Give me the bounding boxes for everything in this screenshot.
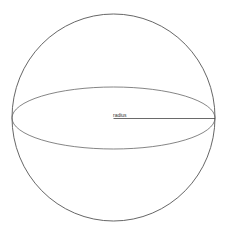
- radius-label: radius: [113, 112, 127, 118]
- sphere-outline: [12, 14, 215, 221]
- equator-ellipse: [12, 87, 215, 149]
- sphere-diagram: radius: [0, 0, 225, 234]
